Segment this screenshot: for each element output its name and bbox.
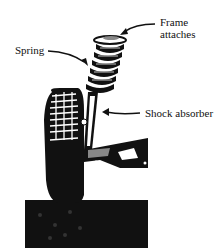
- label-shock-absorber: Shock absorber: [145, 107, 213, 119]
- label-frame-line2: attaches: [160, 28, 220, 40]
- arrow-shock-absorber: [106, 112, 140, 114]
- arrow-spring: [48, 51, 84, 62]
- control-arm: [84, 138, 148, 168]
- coil-spring: [86, 36, 126, 93]
- arrow-frame-attaches: [124, 24, 155, 32]
- ground-block: [25, 200, 148, 248]
- label-frame-line1: Frame: [160, 16, 220, 28]
- label-frame-attaches: Frame attaches: [160, 16, 220, 40]
- label-spring: Spring: [15, 44, 44, 56]
- mount-bolt: [81, 119, 87, 125]
